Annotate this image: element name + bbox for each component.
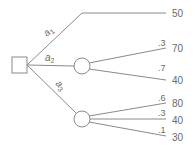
alternative-label-a1: a1 bbox=[41, 24, 56, 39]
chance-node-a2 bbox=[74, 58, 90, 74]
payoff-a2-2: 40 bbox=[172, 75, 184, 86]
probability-a2-2: .7 bbox=[158, 63, 166, 73]
probability-a3-1: .6 bbox=[158, 93, 166, 103]
probability-a3-2: .3 bbox=[158, 108, 166, 118]
alternative-label-a2: a2 bbox=[45, 52, 55, 64]
branch-a2-outcome-2 bbox=[89, 69, 166, 80]
branch-a2-outcome-1 bbox=[89, 48, 166, 63]
probability-a2-1: .3 bbox=[158, 38, 166, 48]
branch-a3 bbox=[27, 65, 76, 113]
decision-node bbox=[12, 57, 27, 73]
chance-node-a3 bbox=[74, 111, 90, 127]
payoff-a3-2: 40 bbox=[172, 115, 184, 126]
payoff-a3-1: 80 bbox=[172, 98, 184, 109]
payoff-a1: 50 bbox=[172, 8, 184, 19]
alternative-label-a3: a3 bbox=[53, 78, 68, 93]
decision-tree-diagram: a1 a2 a3 .3 .7 .6 .3 .1 50 70 40 80 40 3… bbox=[0, 0, 195, 147]
probability-a3-3: .1 bbox=[158, 125, 166, 135]
branch-a3-outcome-1 bbox=[89, 103, 166, 116]
branch-a2 bbox=[27, 65, 74, 66]
branch-a3-outcome-3 bbox=[89, 122, 166, 136]
payoff-a3-3: 30 bbox=[172, 132, 184, 143]
payoff-a2-1: 70 bbox=[172, 43, 184, 54]
